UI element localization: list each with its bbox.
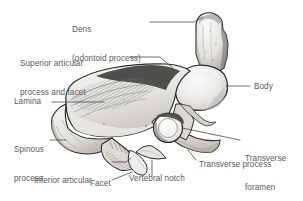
label-transverse-foramen-line2: foramen [245,183,286,193]
label-spinous-line1: Spinous [14,145,44,155]
label-transverse-foramen: Transverse foramen [245,135,286,201]
label-facet: Facet [90,179,111,189]
label-inferior-articular-line1: Inferior articular [34,176,92,186]
label-inferior-articular-process: Inferior articular process [34,157,92,201]
label-superior-articular-line1: Superior articular [20,59,85,69]
leader-dens [150,17,203,22]
inferior-articular-process-structure [101,138,147,175]
label-dens-line1: Dens [72,25,141,35]
dens-structure [196,13,228,72]
label-vertebral-notch: Vertebral notch [129,174,185,184]
leader-transverse-process [188,150,196,160]
label-body: Body [254,82,273,92]
anatomical-figure: Dens (odontoid process) Superior articul… [0,0,303,201]
label-lamina: Lamina [14,97,41,107]
label-transverse-foramen-line1: Transverse [245,154,286,164]
